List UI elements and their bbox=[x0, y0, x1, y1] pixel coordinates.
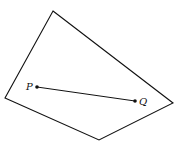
point-q bbox=[133, 99, 137, 103]
label-q: Q bbox=[139, 96, 147, 107]
quadrilateral-outline bbox=[5, 11, 173, 140]
label-p: P bbox=[25, 81, 33, 92]
segment-pq bbox=[37, 87, 135, 101]
point-p bbox=[35, 85, 39, 89]
quadrilateral-diagram: P Q bbox=[0, 0, 180, 147]
